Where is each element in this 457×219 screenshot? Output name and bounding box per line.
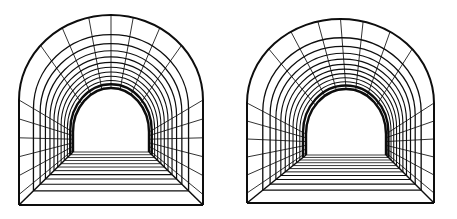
arch-rib xyxy=(70,84,152,154)
left-tunnel-figure xyxy=(0,0,228,219)
arch-rib xyxy=(300,82,391,160)
image-canvas xyxy=(0,0,457,219)
wall-longitudinal-line-left xyxy=(247,153,306,193)
arch-rib xyxy=(67,80,154,157)
arch-rib xyxy=(297,78,394,163)
arch-rib xyxy=(73,88,149,152)
right-tunnel-figure xyxy=(229,0,457,219)
right-tunnel-group xyxy=(247,19,434,203)
wall-longitudinal-line-left xyxy=(247,145,306,157)
vault-longitudinal-line xyxy=(341,19,347,89)
arch-rib xyxy=(270,46,415,184)
wall-longitudinal-line-left xyxy=(247,139,306,142)
left-tunnel-group xyxy=(19,15,203,205)
arch-rib xyxy=(303,85,388,157)
arch-rib xyxy=(306,89,386,155)
